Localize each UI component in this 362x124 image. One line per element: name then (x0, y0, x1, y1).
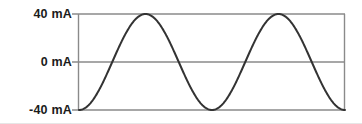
sine-wave-chart-figure: 40 mA 0 mA -40 mA (0, 0, 362, 124)
plot-area (0, 0, 362, 124)
